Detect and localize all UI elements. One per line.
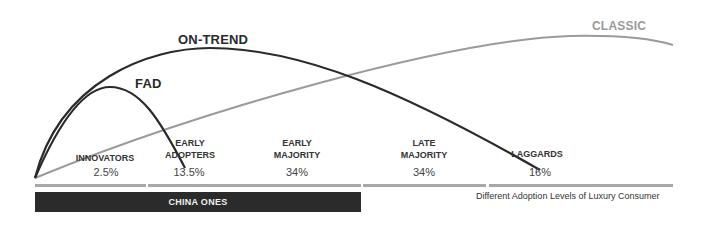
classic-label: CLASSIC	[592, 19, 646, 33]
fad-curve	[35, 87, 185, 178]
segment-title-laggards: LAGGARDS	[511, 148, 563, 160]
segment-pct-early-adopters: 13.5%	[173, 166, 204, 178]
segment-pct-late-majority: 34%	[413, 166, 435, 178]
segment-bar-late-majority	[363, 184, 486, 187]
china-ones-bar: CHINA ONES	[35, 192, 361, 212]
segment-pct-innovators: 2.5%	[93, 166, 118, 178]
segment-title-early-adopters-1: EARLY	[175, 137, 205, 149]
segment-title-early-majority-1: EARLY	[282, 137, 312, 149]
segment-pct-early-majority: 34%	[286, 166, 308, 178]
china-ones-label: CHINA ONES	[168, 197, 227, 207]
segment-title-late-majority-1: LATE	[413, 137, 436, 149]
segment-title-innovators: INNOVATORS	[76, 152, 135, 164]
caption: Different Adoption Levels of Luxury Cons…	[476, 191, 659, 201]
fad-label: FAD	[135, 76, 162, 91]
segment-pct-laggards: 16%	[529, 166, 551, 178]
segment-title-early-adopters-2: ADOPTERS	[165, 149, 215, 161]
segment-title-early-majority-2: MAJORITY	[274, 149, 321, 161]
segment-bar-early	[148, 184, 361, 187]
segment-bar-laggards	[489, 184, 673, 187]
on-trend-label: ON-TREND	[178, 32, 248, 47]
segment-title-late-majority-2: MAJORITY	[401, 149, 448, 161]
segment-bar-innovators	[35, 184, 146, 187]
